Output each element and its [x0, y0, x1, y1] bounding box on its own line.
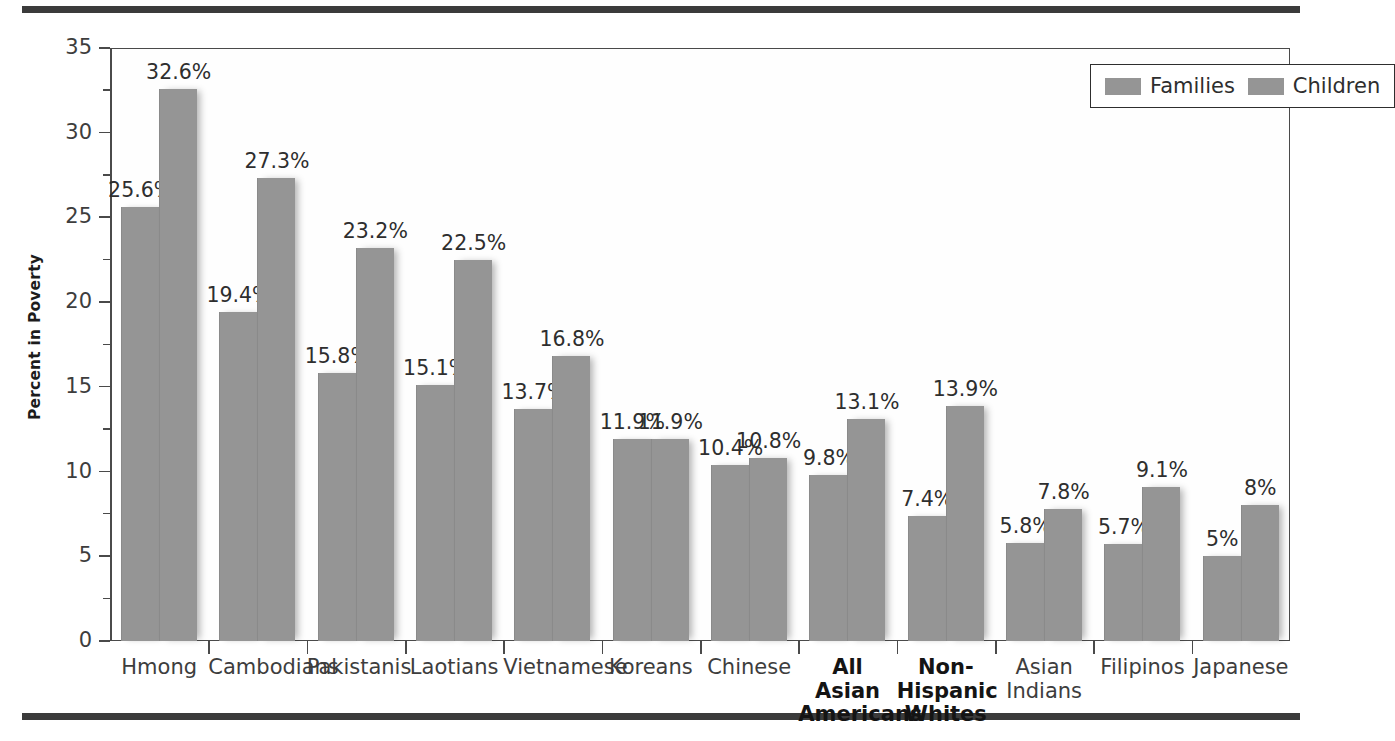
bar-families[interactable]: 15.1% — [416, 385, 454, 641]
x-axis-tick — [307, 641, 309, 654]
bar-families[interactable]: 15.8% — [318, 373, 356, 641]
bar-families[interactable]: 5.8% — [1006, 543, 1044, 641]
legend-entry[interactable]: Children — [1248, 74, 1380, 98]
y-axis-tick-mark — [103, 344, 110, 346]
bar-children[interactable]: 8% — [1241, 505, 1279, 641]
bar-children[interactable]: 22.5% — [454, 260, 492, 641]
x-axis-tick — [1192, 641, 1194, 654]
y-axis-tick-mark — [99, 216, 110, 218]
x-axis-tick — [897, 641, 899, 654]
x-axis-category-label: Filipinos — [1093, 656, 1191, 680]
y-axis-tick-mark — [99, 47, 110, 49]
bar-families[interactable]: 9.8% — [809, 475, 847, 641]
y-axis-tick-mark — [99, 132, 110, 134]
bar-families[interactable]: 11.9% — [613, 439, 651, 641]
bar-group: 13.7%16.8% — [503, 48, 601, 641]
bar-value-label: 27.3% — [244, 149, 309, 173]
y-axis-tick-mark — [103, 174, 110, 176]
x-axis-category-label: Koreans — [602, 656, 700, 680]
bar-families[interactable]: 10.4% — [711, 465, 749, 641]
bar-group: 10.4%10.8% — [700, 48, 798, 641]
y-axis-tick-mark — [99, 471, 110, 473]
bar-families[interactable]: 25.6% — [121, 207, 159, 641]
bar-children[interactable]: 9.1% — [1142, 487, 1180, 641]
x-axis-category-label: Cambodians — [208, 656, 306, 680]
bars-layer: 25.6%32.6%19.4%27.3%15.8%23.2%15.1%22.5%… — [110, 48, 1290, 641]
y-axis-tick-label: 15 — [65, 374, 92, 398]
x-axis-tick — [1093, 641, 1095, 654]
y-axis-tick-label: 35 — [65, 35, 92, 59]
y-axis-tick-label: 5 — [79, 543, 92, 567]
bar-families[interactable]: 7.4% — [908, 516, 946, 641]
bar-value-label: 10.8% — [736, 429, 801, 453]
y-axis-tick-mark — [103, 513, 110, 515]
x-axis-category-label: Laotians — [405, 656, 503, 680]
bar-group: 9.8%13.1% — [798, 48, 896, 641]
bar-families[interactable]: 5% — [1203, 556, 1241, 641]
bar-children[interactable]: 13.9% — [946, 406, 984, 642]
bar-group: 5%8% — [1192, 48, 1290, 641]
y-axis-tick-label: 20 — [65, 289, 92, 313]
x-axis-tick — [208, 641, 210, 654]
bar-group: 15.1%22.5% — [405, 48, 503, 641]
bar-group: 15.8%23.2% — [307, 48, 405, 641]
legend-entry[interactable]: Families — [1105, 74, 1235, 98]
bar-value-label: 5% — [1206, 527, 1239, 551]
bar-value-label: 8% — [1244, 476, 1277, 500]
bar-families[interactable]: 13.7% — [514, 409, 552, 641]
y-axis-tick-mark — [99, 301, 110, 303]
y-axis-tick-mark — [99, 555, 110, 557]
legend-label: Children — [1293, 74, 1380, 98]
bar-value-label: 16.8% — [539, 327, 604, 351]
y-axis-tick-mark — [103, 598, 110, 600]
poverty-bar-chart: 05101520253035 Percent in Poverty 25.6%3… — [0, 28, 1323, 698]
x-axis-category-label: Vietnamese — [503, 656, 601, 680]
x-axis-tick — [995, 641, 997, 654]
bar-children[interactable]: 23.2% — [356, 248, 394, 641]
x-axis-category-label: Chinese — [700, 656, 798, 680]
x-axis-category-label: Asian Indians — [995, 656, 1093, 703]
bar-group: 19.4%27.3% — [208, 48, 306, 641]
bar-children[interactable]: 32.6% — [159, 89, 197, 641]
bar-children[interactable]: 16.8% — [552, 356, 590, 641]
bar-value-label: 11.9% — [638, 410, 703, 434]
bar-children[interactable]: 7.8% — [1044, 509, 1082, 641]
x-axis-category-label: All Asian Americans — [798, 656, 896, 727]
bar-value-label: 32.6% — [146, 60, 211, 84]
chart-legend: FamiliesChildren — [1090, 64, 1395, 108]
bar-group: 7.4%13.9% — [897, 48, 995, 641]
y-axis-tick-label: 0 — [79, 628, 92, 652]
y-axis-tick-mark — [99, 640, 110, 642]
x-axis-category-label: Pakistanis — [307, 656, 405, 680]
bar-value-label: 9.1% — [1136, 458, 1188, 482]
x-axis-tick — [602, 641, 604, 654]
x-axis-category-label: Non- Hispanic Whites — [897, 656, 995, 727]
bar-group: 5.7%9.1% — [1093, 48, 1191, 641]
y-axis-tick-mark — [103, 89, 110, 91]
y-axis-tick-mark — [103, 428, 110, 430]
x-axis-tick — [700, 641, 702, 654]
x-axis-tick — [405, 641, 407, 654]
bar-value-label: 22.5% — [441, 231, 506, 255]
x-axis-tick — [798, 641, 800, 654]
y-axis-title: Percent in Poverty — [26, 207, 44, 467]
bar-families[interactable]: 19.4% — [219, 312, 257, 641]
x-axis-labels: HmongCambodiansPakistanisLaotiansVietnam… — [110, 656, 1290, 741]
bar-children[interactable]: 11.9% — [651, 439, 689, 641]
bar-value-label: 13.1% — [834, 390, 899, 414]
bar-group: 5.8%7.8% — [995, 48, 1093, 641]
bar-children[interactable]: 13.1% — [847, 419, 885, 641]
bar-children[interactable]: 10.8% — [749, 458, 787, 641]
y-axis-tick-mark — [103, 259, 110, 261]
bar-group: 25.6%32.6% — [110, 48, 208, 641]
bar-families[interactable]: 5.7% — [1104, 544, 1142, 641]
y-axis-tick-label: 10 — [65, 459, 92, 483]
x-axis-category-label: Japanese — [1192, 656, 1290, 680]
bar-value-label: 13.9% — [933, 377, 998, 401]
legend-swatch — [1105, 78, 1141, 95]
x-axis-tick — [503, 641, 505, 654]
bar-value-label: 23.2% — [343, 219, 408, 243]
bar-children[interactable]: 27.3% — [257, 178, 295, 641]
legend-swatch — [1248, 78, 1284, 95]
y-axis-tick-label: 25 — [65, 204, 92, 228]
